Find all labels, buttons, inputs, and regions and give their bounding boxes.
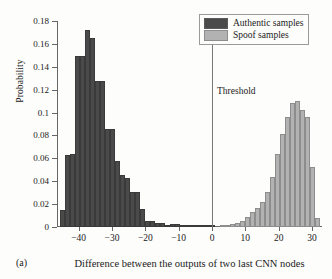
- x-axis-tick: [312, 227, 313, 231]
- x-axis-tick-label: −40: [71, 233, 86, 243]
- y-axis-tick-label: 0: [45, 222, 50, 232]
- y-axis-tick-label: 0.08: [33, 130, 49, 140]
- x-axis-tick-label: 0: [210, 233, 215, 243]
- panel-label: (a): [16, 257, 27, 268]
- legend-swatch-authentic: [204, 18, 228, 29]
- y-axis-tick-label: 0.06: [33, 153, 49, 163]
- x-axis-tick: [145, 227, 146, 231]
- legend-label-spoof: Spoof samples: [233, 31, 289, 41]
- y-axis-tick: [52, 67, 57, 68]
- y-axis-tick: [52, 227, 57, 228]
- legend-item-authentic: Authentic samples: [204, 18, 303, 29]
- y-axis-tick: [52, 204, 57, 205]
- x-axis-tick-label: −10: [171, 233, 186, 243]
- y-axis-tick-label: 0.02: [33, 199, 49, 209]
- y-axis-tick-label: 0.04: [33, 176, 49, 186]
- histogram-bar: [315, 218, 320, 227]
- y-axis-tick-label: 0.14: [33, 62, 49, 72]
- x-axis-tick-label: −20: [138, 233, 153, 243]
- x-axis-tick: [179, 227, 180, 231]
- threshold-label: Threshold: [217, 86, 256, 96]
- y-axis-title: Probability: [15, 33, 25, 129]
- x-axis-tick-label: −30: [105, 233, 120, 243]
- x-axis-tick: [79, 227, 80, 231]
- x-axis-tick: [112, 227, 113, 231]
- y-axis-tick: [52, 158, 57, 159]
- y-axis-tick: [52, 21, 57, 22]
- plot-area: 00.020.040.060.080.10.120.140.160.18 −40…: [57, 21, 322, 227]
- x-axis-tick: [279, 227, 280, 231]
- y-axis-tick-label: 0.1: [38, 108, 49, 118]
- threshold-line: [212, 25, 213, 227]
- legend-swatch-spoof: [204, 30, 228, 41]
- histogram-bars: [57, 21, 322, 227]
- x-axis-tick-label: 20: [274, 233, 284, 243]
- x-axis-tick: [212, 227, 213, 231]
- y-axis-tick-label: 0.16: [33, 39, 49, 49]
- legend-label-authentic: Authentic samples: [233, 19, 303, 29]
- y-axis-tick: [52, 90, 57, 91]
- legend-item-spoof: Spoof samples: [204, 30, 303, 41]
- x-axis-title: Difference between the outputs of two la…: [52, 258, 327, 269]
- x-axis-tick: [245, 227, 246, 231]
- figure: Probability 00.020.040.060.080.10.120.14…: [0, 0, 332, 279]
- y-axis-tick: [52, 181, 57, 182]
- y-axis-tick: [52, 135, 57, 136]
- x-axis-tick-label: 30: [307, 233, 317, 243]
- y-axis-tick-label: 0.18: [33, 16, 49, 26]
- x-axis-tick-label: 10: [241, 233, 251, 243]
- legend: Authentic samples Spoof samples: [199, 14, 309, 45]
- y-axis-tick-label: 0.12: [33, 85, 49, 95]
- y-axis-tick: [52, 113, 57, 114]
- y-axis-tick: [52, 44, 57, 45]
